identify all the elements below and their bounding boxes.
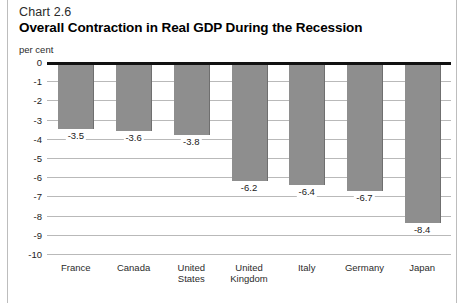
x-axis-category-label: United States	[178, 262, 205, 284]
y-axis-tick-label: -5	[34, 153, 42, 164]
x-axis-category-label: Japan	[409, 262, 435, 273]
figure-right-border	[456, 0, 457, 303]
y-axis-tick-label: -7	[34, 191, 42, 202]
chart-title: Overall Contraction in Real GDP During t…	[19, 20, 362, 35]
x-axis-category-label: France	[61, 262, 91, 273]
y-axis-tick-label: -3	[34, 114, 42, 125]
chart-figure: Chart 2.6 Overall Contraction in Real GD…	[0, 0, 471, 303]
figure-left-border	[7, 0, 8, 303]
bar-value-label: -6.7	[354, 193, 374, 203]
bar	[347, 62, 383, 191]
bar-value-label: -3.5	[66, 131, 86, 141]
plot-area: 0-1-2-3-4-5-6-7-8-9-10-3.5-3.6-3.8-6.2-6…	[47, 62, 451, 254]
gridline	[47, 254, 451, 255]
gridline	[47, 235, 451, 236]
y-axis-tick-label: -1	[34, 76, 42, 87]
bar	[116, 62, 152, 131]
bar	[289, 62, 325, 185]
x-axis-category-label: Germany	[345, 262, 384, 273]
x-axis-category-label: Italy	[298, 262, 315, 273]
bar-value-label: -8.4	[412, 225, 432, 235]
bar-value-label: -3.8	[181, 137, 201, 147]
bar	[232, 62, 268, 181]
bar-value-label: -6.2	[239, 183, 259, 193]
gridline	[47, 196, 451, 197]
chart-number: Chart 2.6	[19, 5, 71, 19]
gridline	[47, 216, 451, 217]
y-axis-tick-label: -2	[34, 95, 42, 106]
bar	[58, 62, 94, 129]
x-axis-labels: FranceCanadaUnited StatesUnited KingdomI…	[47, 262, 451, 292]
bar-value-label: -3.6	[123, 133, 143, 143]
y-axis-tick-label: -9	[34, 229, 42, 240]
y-axis-tick-label: -10	[28, 249, 42, 260]
y-axis-tick-label: -6	[34, 172, 42, 183]
x-axis-category-label: United Kingdom	[230, 262, 268, 284]
bar	[174, 62, 210, 135]
y-axis-tick-label: -8	[34, 210, 42, 221]
y-axis-tick-label: -4	[34, 133, 42, 144]
bar-value-label: -6.4	[297, 187, 317, 197]
zero-axis-line	[47, 62, 451, 65]
y-axis-unit-label: per cent	[19, 44, 53, 55]
y-axis-tick-label: 0	[37, 57, 42, 68]
bar	[405, 62, 441, 223]
x-axis-category-label: Canada	[117, 262, 150, 273]
